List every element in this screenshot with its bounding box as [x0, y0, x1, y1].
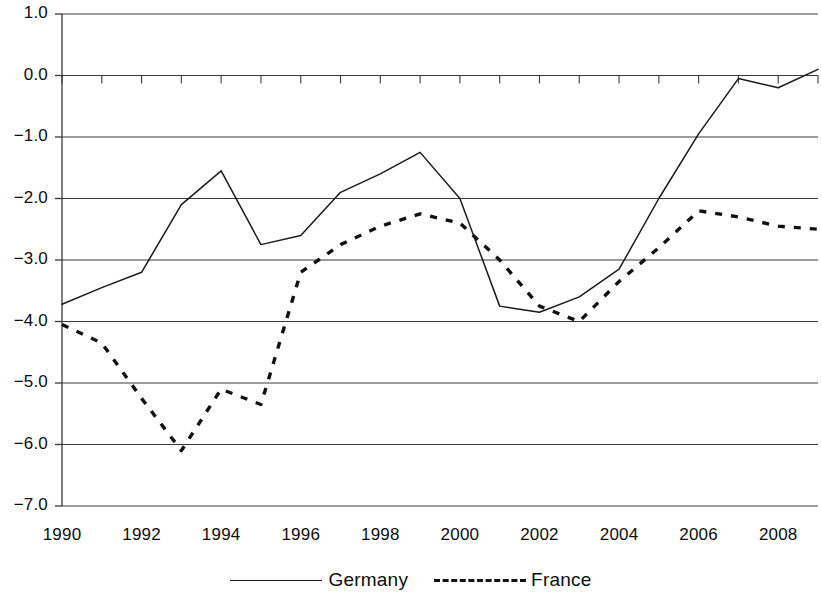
- x-axis-tick-label: 2002: [499, 525, 579, 545]
- line-chart: 1.00.0−1.0−2.0−3.0−4.0−5.0−6.0−7.0 19901…: [0, 0, 821, 606]
- legend-label-germany: Germany: [329, 569, 409, 591]
- legend-line-dashed-icon: [434, 579, 526, 582]
- x-axis-tick-label: 1990: [22, 525, 102, 545]
- x-axis-tick-label: 2004: [579, 525, 659, 545]
- legend-line-solid-icon: [230, 580, 322, 581]
- x-axis-tick-label: 1998: [340, 525, 420, 545]
- legend-label-france: France: [531, 569, 591, 591]
- x-axis-tick-label: 2008: [738, 525, 818, 545]
- series-line-france: [62, 211, 818, 451]
- y-axis-tick-label: −7.0: [0, 495, 48, 515]
- y-axis-tick-label: 0.0: [0, 65, 48, 85]
- y-axis-tick-label: −6.0: [0, 434, 48, 454]
- legend-entry-germany: Germany: [230, 569, 409, 591]
- series-line-germany: [62, 69, 818, 312]
- y-axis-tick-label: −4.0: [0, 311, 48, 331]
- chart-legend: Germany France: [0, 560, 821, 600]
- x-axis-tick-label: 1996: [261, 525, 341, 545]
- x-axis-tick-label: 2000: [420, 525, 500, 545]
- x-axis-tick-label: 1992: [102, 525, 182, 545]
- y-axis-tick-label: −3.0: [0, 249, 48, 269]
- legend-entry-france: France: [408, 569, 591, 591]
- x-axis-tick-label: 1994: [181, 525, 261, 545]
- y-axis-tick-label: −5.0: [0, 372, 48, 392]
- chart-plot-area: [0, 0, 821, 606]
- y-axis-tick-label: −2.0: [0, 188, 48, 208]
- y-axis-tick-label: −1.0: [0, 126, 48, 146]
- y-axis-tick-label: 1.0: [0, 3, 48, 23]
- x-axis-tick-label: 2006: [659, 525, 739, 545]
